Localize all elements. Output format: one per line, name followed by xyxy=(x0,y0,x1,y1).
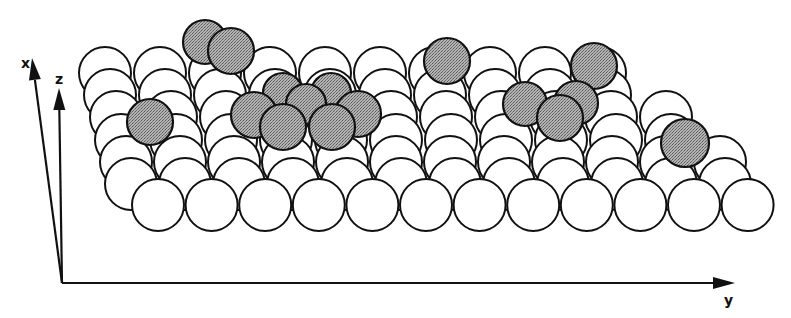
z-axis-arrow xyxy=(59,110,62,283)
substrate-atom xyxy=(400,179,452,231)
adsorbate-atom xyxy=(537,95,583,141)
substrate-atom xyxy=(507,179,559,231)
substrate-atom xyxy=(454,179,506,231)
y-arrowhead-icon xyxy=(713,277,735,289)
surface-diagram: x z y xyxy=(0,0,791,318)
adsorbate-atom xyxy=(127,99,173,145)
adsorbate-atom xyxy=(661,119,709,167)
z-axis-label: z xyxy=(55,71,63,87)
adsorbate-atom xyxy=(309,104,355,150)
substrate-atom xyxy=(722,179,774,231)
substrate-atom xyxy=(239,179,291,231)
substrate-atom xyxy=(186,179,238,231)
substrate-atom xyxy=(132,179,184,231)
substrate-atom xyxy=(561,179,613,231)
adsorbate-atom xyxy=(260,104,306,150)
substrate-atom xyxy=(293,179,345,231)
x-axis-label: x xyxy=(21,55,30,71)
substrate-atom xyxy=(346,179,398,231)
adsorbate-atom xyxy=(424,38,470,84)
x-axis-arrow xyxy=(35,80,62,283)
x-arrowhead-icon xyxy=(29,58,41,81)
z-arrowhead-icon xyxy=(53,88,65,110)
substrate-atom xyxy=(668,179,720,231)
substrate-atom xyxy=(614,179,666,231)
adsorbate-atom xyxy=(208,28,254,74)
y-axis-label: y xyxy=(724,292,733,308)
